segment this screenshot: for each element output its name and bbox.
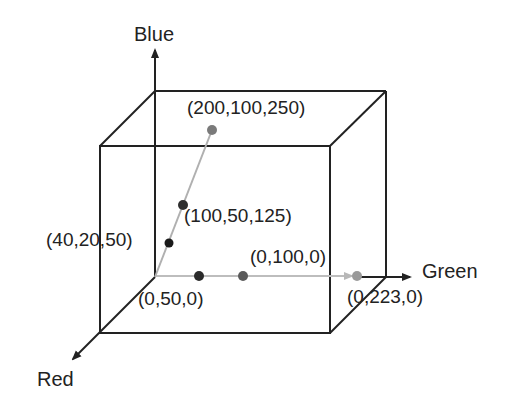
- point-label-0-50-0: (0,50,0): [138, 289, 203, 308]
- point-0-223-0: [352, 271, 362, 281]
- point-label-0-100-0: (0,100,0): [250, 247, 326, 266]
- red-axis-label: Red: [37, 369, 74, 389]
- point-40-20-50: [165, 239, 174, 248]
- point-0-100-0: [238, 271, 248, 281]
- point-label-0-223-0: (0,223,0): [347, 287, 423, 306]
- point-0-50-0: [194, 271, 204, 281]
- point-200-100-250: [207, 125, 217, 135]
- point-label-200-100-250: (200,100,250): [187, 98, 305, 117]
- point-label-100-50-125: (100,50,125): [184, 206, 292, 225]
- point-label-40-20-50: (40,20,50): [46, 230, 133, 249]
- green-axis-label: Green: [422, 261, 478, 281]
- blue-axis-label: Blue: [134, 24, 174, 44]
